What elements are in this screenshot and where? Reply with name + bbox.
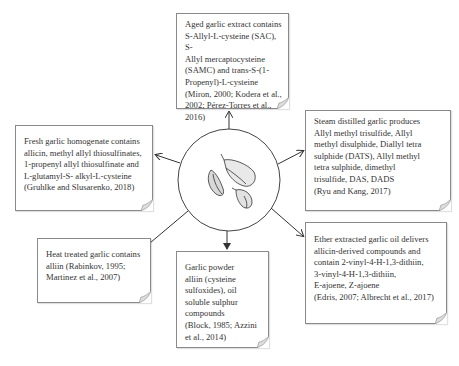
page-curl-icon — [141, 199, 153, 211]
note-text: Aged garlic extract contains S-Allyl-L-c… — [185, 19, 282, 123]
page-curl-icon — [439, 199, 451, 211]
note-text: Steam distilled garlic produces Allyl me… — [314, 116, 444, 197]
note-steam-distilled-garlic: Steam distilled garlic produces Allyl me… — [305, 110, 451, 211]
note-garlic-powder: Garlic powder alliin (cysteine sulfoxide… — [176, 251, 269, 348]
page-curl-icon — [277, 97, 289, 109]
note-heat-treated-garlic: Heat treated garlic contains alliin (Rab… — [37, 238, 151, 303]
note-text: Garlic powder alliin (cysteine sulfoxide… — [185, 262, 262, 343]
arrow-to-left — [156, 155, 180, 163]
page-curl-icon — [139, 291, 151, 303]
page-curl-icon — [435, 312, 447, 324]
page-curl-icon — [257, 336, 269, 348]
center-circle — [178, 129, 280, 231]
note-aged-garlic-extract: Aged garlic extract contains S-Allyl-L-c… — [176, 13, 289, 109]
note-fresh-garlic-homogenate: Fresh garlic homogenate contains allicin… — [15, 125, 153, 211]
note-text: Ether extracted garlic oil delivers alli… — [314, 234, 440, 304]
note-ether-extracted-garlic-oil: Ether extracted garlic oil delivers alli… — [305, 222, 447, 324]
arrow-to-bottom-right — [271, 208, 303, 236]
note-text: Fresh garlic homogenate contains allicin… — [24, 136, 146, 194]
note-text: Heat treated garlic contains alliin (Rab… — [46, 249, 144, 284]
arrow-to-bottom-left — [150, 211, 188, 243]
arrow-to-right — [278, 151, 303, 164]
